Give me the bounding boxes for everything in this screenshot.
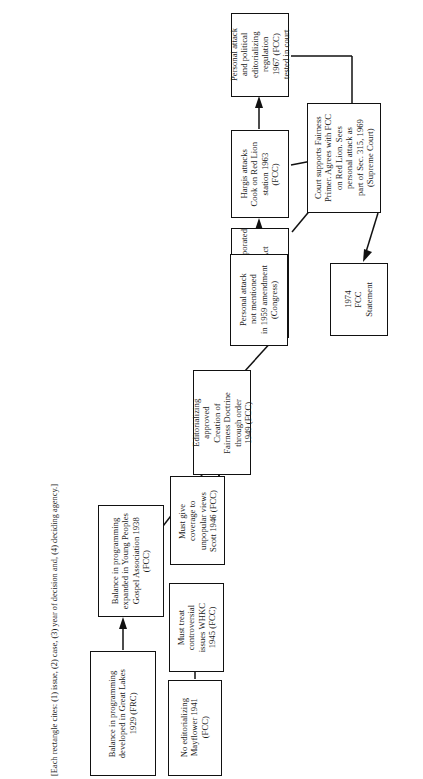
node-personal-attack-rule-label: Personal attack and political editoriali… <box>229 28 292 81</box>
edge-great-lakes-to-young-peoples <box>119 617 127 650</box>
node-editorializing-approved[interactable]: Editorializing approved Creation of Fair… <box>193 370 251 475</box>
figure-caption-text: [Each rectangle cites: (1) issue, (2) ca… <box>50 484 60 776</box>
flowchart-canvas: Balance in programming developed in Grea… <box>0 0 423 779</box>
node-fcc-1974[interactable]: 1974 FCC Statement <box>330 263 388 336</box>
node-personal-attack-not-mentioned-visible[interactable]: Personal attack not mentioned in 1959 am… <box>230 254 288 346</box>
node-scott[interactable]: Must give coverage to unpopular views Sc… <box>170 476 225 565</box>
node-young-peoples-label: Balance in programming expanded in Young… <box>110 513 152 609</box>
node-scott-label: Must give coverage to unpopular views Sc… <box>177 490 219 552</box>
node-great-lakes-label: Balance in programming developed in Grea… <box>107 669 138 758</box>
node-hargis[interactable]: Hargis attacks Cook on Red Lion station … <box>231 130 289 218</box>
node-fcc-1974-label: 1974 FCC Statement <box>343 282 374 317</box>
node-editorializing-approved-label: Editorializing approved Creation of Fair… <box>191 392 254 454</box>
node-whkc-label: Must treat controversial issues WHKC 194… <box>176 603 218 652</box>
node-young-peoples[interactable]: Balance in programming expanded in Young… <box>98 505 164 617</box>
node-personal-attack-rule[interactable]: Personal attack and political editoriali… <box>231 13 289 97</box>
edge-hargis-to-personal-attack-rule <box>255 96 263 129</box>
edge-red-lion-to-fcc-1974 <box>363 213 378 262</box>
node-mayflower[interactable]: No editorializing Mayflower 1941 (FCC) <box>168 680 222 776</box>
node-red-lion[interactable]: Court supports Fairness Primer. Agrees w… <box>307 103 381 213</box>
node-red-lion-label: Court supports Fairness Primer. Agrees w… <box>313 114 376 202</box>
node-whkc[interactable]: Must treat controversial issues WHKC 194… <box>169 583 224 672</box>
node-great-lakes[interactable]: Balance in programming developed in Grea… <box>90 651 156 776</box>
node-mayflower-label: No editorializing Mayflower 1941 (FCC) <box>179 698 210 757</box>
figure-caption: [Each rectangle cites: (1) issue, (2) ca… <box>44 398 66 776</box>
node-personal-attack-not-mentioned-label: Personal attack not mentioned in 1959 am… <box>238 265 280 334</box>
node-hargis-label: Hargis attacks Cook on Red Lion station … <box>239 142 281 207</box>
